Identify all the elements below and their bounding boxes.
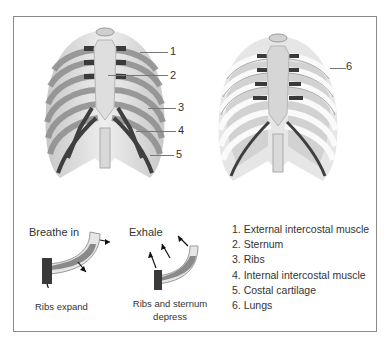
leader-line-3 [148, 108, 176, 109]
rib-cage-lungs-illustration [213, 26, 343, 186]
rib-cage-muscles-illustration [40, 18, 170, 183]
exhale-caption-line1: Ribs and sternum [128, 297, 212, 310]
legend-item-3: 3. Ribs [232, 252, 369, 267]
legend-item-2: 2. Sternum [232, 237, 369, 252]
leader-line-2 [108, 75, 168, 76]
rib-depress-illustration [140, 232, 200, 292]
legend-item-5: 5. Costal cartilage [232, 283, 369, 298]
rib-expand-illustration [38, 228, 110, 288]
callout-1: 1 [170, 45, 176, 57]
legend-item-4: 4. Internal intercostal muscle [232, 268, 369, 283]
leader-line-4 [136, 131, 176, 132]
callout-3: 3 [178, 101, 184, 113]
legend-item-1: 1. External intercostal muscle [232, 222, 369, 237]
callout-4: 4 [178, 124, 184, 136]
leader-line-5 [150, 155, 174, 156]
legend-item-6: 6. Lungs [232, 298, 369, 313]
callout-5: 5 [176, 148, 182, 160]
exhale-caption: Ribs and sternum depress [128, 297, 212, 323]
leader-line-6 [330, 68, 346, 69]
legend: 1. External intercostal muscle 2. Sternu… [232, 222, 369, 313]
exhale-caption-line2: depress [128, 310, 212, 323]
leader-line-1 [140, 52, 168, 53]
callout-6: 6 [346, 60, 352, 72]
callout-2: 2 [170, 69, 176, 81]
inhale-caption: Ribs expand [35, 300, 88, 313]
